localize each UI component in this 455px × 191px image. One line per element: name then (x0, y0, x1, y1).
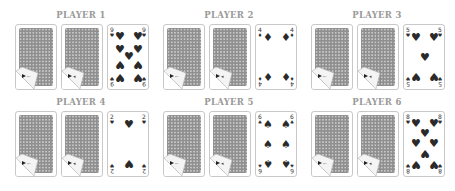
peeled-corner-icon[interactable]: ⌐ (312, 150, 338, 176)
face-up-card-5-of-hearts[interactable]: 5♥5♥5♥5♥♥♥♥♥♥ (403, 24, 445, 90)
peeled-corner-icon[interactable]: ◂ (210, 63, 236, 89)
diamonds-pip-icon: ♦ (262, 32, 274, 43)
face-down-card[interactable]: ◂ (209, 111, 251, 177)
peeled-corner-icon[interactable]: ⌐ (164, 150, 190, 176)
card-rank: 2 (142, 168, 146, 175)
peeled-corner-icon[interactable]: ◂ (62, 63, 88, 89)
hearts-pip-icon: ♥ (132, 31, 144, 42)
face-up-card-4-of-diamonds[interactable]: 4♦4♦4♦4♦♦♦♦♦ (255, 24, 297, 90)
face-up-card-9-of-hearts[interactable]: 9♥9♥9♥9♥♥♥♥♥♥♥♥♥♥ (107, 24, 149, 90)
hearts-pip-icon: ♥ (428, 159, 440, 170)
spades-pip-icon: ♠ (262, 119, 274, 130)
player-title: PLAYER 6 (303, 97, 451, 107)
peeled-corner-icon[interactable]: ⌐ (16, 63, 42, 89)
peeled-corner-icon[interactable]: ⌐ (16, 150, 42, 176)
card-rank: 5 (406, 81, 410, 88)
diamonds-pip-icon: ♦ (280, 71, 292, 82)
peeled-corner-icon[interactable]: ⌐ (312, 63, 338, 89)
spades-pip-icon: ♠ (280, 158, 292, 169)
player-6-hand: PLAYER 6⌐◂8♥8♥8♥8♥♥♥♥♥♥♥♥♥ (303, 97, 451, 187)
player-title: PLAYER 5 (155, 97, 303, 107)
player-title: PLAYER 2 (155, 10, 303, 20)
svg-text:⌐: ⌐ (175, 160, 179, 166)
player-3-hand: PLAYER 3⌐◂5♥5♥5♥5♥♥♥♥♥♥ (303, 10, 451, 100)
face-up-card-6-of-spades[interactable]: 6♠6♠6♠6♠♠♠♠♠♠♠ (255, 111, 297, 177)
face-down-card[interactable]: ◂ (61, 111, 103, 177)
face-down-card[interactable]: ⌐ (15, 24, 57, 90)
card-index: 2♥ (109, 163, 115, 174)
diamonds-pip-icon: ♦ (262, 71, 274, 82)
face-up-card-8-of-hearts[interactable]: 8♥8♥8♥8♥♥♥♥♥♥♥♥♥ (403, 111, 445, 177)
hearts-pip-icon: ♥ (114, 72, 126, 83)
player-2-hand: PLAYER 2⌐◂4♦4♦4♦4♦♦♦♦♦ (155, 10, 303, 100)
svg-text:⌐: ⌐ (323, 160, 327, 166)
peeled-corner-icon[interactable]: ◂ (210, 150, 236, 176)
peeled-corner-icon[interactable]: ◂ (62, 150, 88, 176)
hearts-pip-icon: ♥ (419, 52, 431, 63)
hearts-icon: ♥ (141, 120, 147, 125)
spades-pip-icon: ♠ (280, 139, 292, 150)
hearts-pip-icon: ♥ (123, 119, 135, 130)
card-rank: 6 (258, 168, 262, 175)
hearts-pip-icon: ♥ (114, 31, 126, 42)
hearts-pip-icon: ♥ (428, 71, 440, 82)
svg-text:⌐: ⌐ (175, 73, 179, 79)
diamonds-pip-icon: ♦ (280, 32, 292, 43)
face-down-card[interactable]: ⌐ (15, 111, 57, 177)
hearts-icon: ♥ (109, 120, 115, 125)
hearts-pip-icon: ♥ (428, 32, 440, 43)
svg-text:⌐: ⌐ (27, 73, 31, 79)
hearts-pip-icon: ♥ (410, 32, 422, 43)
card-rank: 2 (110, 168, 114, 175)
svg-text:⌐: ⌐ (27, 160, 31, 166)
face-down-card[interactable]: ⌐ (163, 111, 205, 177)
player-title: PLAYER 4 (7, 97, 155, 107)
face-down-card[interactable]: ⌐ (311, 24, 353, 90)
peeled-corner-icon[interactable]: ◂ (358, 63, 384, 89)
hearts-pip-icon: ♥ (132, 72, 144, 83)
face-down-card[interactable]: ◂ (357, 24, 399, 90)
player-4-hand: PLAYER 4⌐◂2♥2♥2♥2♥♥♥ (7, 97, 155, 187)
card-index: 2♥ (109, 114, 115, 125)
svg-text:⌐: ⌐ (323, 73, 327, 79)
face-down-card[interactable]: ⌐ (163, 24, 205, 90)
spades-pip-icon: ♠ (262, 139, 274, 150)
card-index: 2♥ (141, 114, 147, 125)
hearts-pip-icon: ♥ (410, 71, 422, 82)
hearts-pip-icon: ♥ (132, 59, 144, 70)
hearts-pip-icon: ♥ (123, 158, 135, 169)
face-down-card[interactable]: ◂ (209, 24, 251, 90)
spades-pip-icon: ♠ (280, 119, 292, 130)
hearts-icon: ♥ (141, 163, 147, 168)
card-index: 2♥ (141, 163, 147, 174)
face-down-card[interactable]: ◂ (61, 24, 103, 90)
hearts-pip-icon: ♥ (410, 159, 422, 170)
player-title: PLAYER 3 (303, 10, 451, 20)
face-down-card[interactable]: ◂ (357, 111, 399, 177)
card-rank: 4 (258, 81, 262, 88)
peeled-corner-icon[interactable]: ⌐ (164, 63, 190, 89)
spades-pip-icon: ♠ (262, 158, 274, 169)
player-5-hand: PLAYER 5⌐◂6♠6♠6♠6♠♠♠♠♠♠♠ (155, 97, 303, 187)
peeled-corner-icon[interactable]: ◂ (358, 150, 384, 176)
hearts-icon: ♥ (109, 163, 115, 168)
player-1-hand: PLAYER 1⌐◂9♥9♥9♥9♥♥♥♥♥♥♥♥♥♥ (7, 10, 155, 100)
face-up-card-2-of-hearts[interactable]: 2♥2♥2♥2♥♥♥ (107, 111, 149, 177)
player-title: PLAYER 1 (7, 10, 155, 20)
face-down-card[interactable]: ⌐ (311, 111, 353, 177)
hearts-pip-icon: ♥ (114, 59, 126, 70)
